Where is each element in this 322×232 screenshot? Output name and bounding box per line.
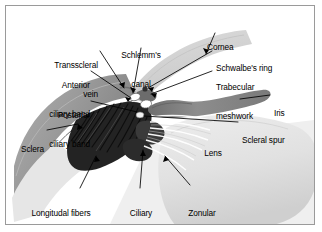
label-ciliary-proc-line1: Ciliary <box>116 209 166 219</box>
label-anterior-line1: Anterior <box>22 81 90 91</box>
label-zonular-line1: Zonular <box>178 209 226 219</box>
label-posterior-line1: Posterior <box>22 111 90 121</box>
label-schlemms-line1: Schlemm's <box>112 51 170 61</box>
label-ciliary-processes: Ciliary processes <box>116 190 166 232</box>
label-lens: Lens <box>196 130 230 178</box>
label-longitudal-fibers: Longitudal fibers of ciliary muscle <box>15 190 107 232</box>
label-longitudal-line1: Longitudal fibers <box>15 209 107 219</box>
label-zonular-fibers: Zonular fibers <box>178 190 226 232</box>
label-lens-line1: Lens <box>196 149 230 159</box>
label-scleral-spur: Scleral spur <box>242 117 285 165</box>
label-sclera-line1: Sclera <box>8 145 44 155</box>
label-schlemms-canal: Schlemm's canal <box>112 32 170 109</box>
label-schlemms-line2: canal <box>112 80 170 90</box>
anatomy-figure: Cornea Schlemm's canal Transscleral vein… <box>0 0 322 232</box>
label-scleral-spur-line1: Scleral spur <box>242 136 285 146</box>
label-trabecular-line1: Trabecular <box>216 83 254 93</box>
label-sclera: Sclera <box>8 126 44 174</box>
scleral-spur-shape <box>136 112 144 118</box>
